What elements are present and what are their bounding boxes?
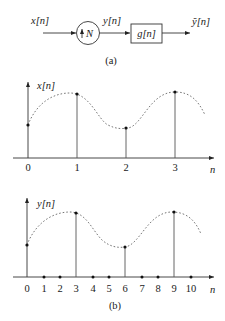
plot-y: y[n] n 0 1 2 3 4 5 6 7 [13,198,215,312]
caption-a: (a) [105,55,117,67]
filter-label: g[n] [137,28,156,39]
tick-5: 5 [106,283,111,294]
envelope-curve [27,212,201,247]
stems [25,210,192,278]
intermediate-label: y[n] [102,15,121,26]
plot-x: x[n] n 0 1 2 3 [13,80,215,175]
output-label: ỹ[n] [191,16,210,27]
tick-1: 1 [41,283,46,294]
caption-b: (b) [109,300,122,312]
envelope-curve [28,92,205,129]
tick-3: 3 [172,162,177,173]
tick-9: 9 [171,283,176,294]
tick-labels: 0 1 2 3 4 5 6 7 8 9 10 [24,283,196,294]
tick-4: 4 [90,283,96,294]
input-label: x[n] [30,15,49,26]
tick-8: 8 [155,283,160,294]
tick-7: 7 [139,283,144,294]
y-axis-label: x[n] [36,80,55,91]
tick-2: 2 [57,283,62,294]
tick-labels: 0 1 2 3 [25,162,177,173]
tick-2: 2 [123,162,128,173]
upsampler-label: N [85,28,94,39]
y-axis-label: y[n] [36,198,55,209]
tick-6: 6 [122,283,127,294]
upsampler-block: N [77,22,100,45]
stems [26,90,176,158]
tick-3: 3 [73,283,78,294]
x-axis-label: n [210,164,215,175]
tick-0: 0 [25,162,30,173]
filter-block: g[n] [131,24,162,43]
block-diagram: x[n] N y[n] g[n] ỹ[n] (a) [30,15,210,67]
figure-canvas: x[n] N y[n] g[n] ỹ[n] (a) x[n] n [0,0,225,321]
tick-1: 1 [74,162,79,173]
tick-10: 10 [186,283,197,294]
x-axis-label: n [210,284,215,295]
tick-0: 0 [24,283,29,294]
